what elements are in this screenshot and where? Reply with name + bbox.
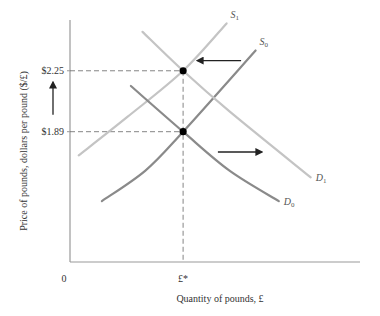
curve-label-subscript: 1 bbox=[236, 14, 240, 22]
y-axis-title: Price of pounds, dollars per pound ($/£) bbox=[18, 71, 30, 231]
curve-label-d1: D1 bbox=[315, 172, 327, 185]
curve-label-subscript: 0 bbox=[265, 41, 269, 49]
curve-label-subscript: 0 bbox=[291, 201, 295, 209]
curve-label-s0: S0 bbox=[260, 36, 269, 49]
x-tick-label: £* bbox=[178, 273, 188, 284]
guide-lines bbox=[70, 71, 183, 262]
curves bbox=[79, 23, 311, 201]
axes bbox=[67, 20, 360, 262]
curve-label-subscript: 1 bbox=[323, 177, 327, 185]
origin-label: 0 bbox=[62, 273, 67, 284]
arrows bbox=[53, 61, 261, 152]
curve-s0 bbox=[102, 50, 256, 201]
curve-d0 bbox=[131, 86, 279, 201]
equilibrium-point bbox=[180, 128, 187, 135]
equilibrium-points bbox=[180, 67, 187, 135]
x-axis-title: Quantity of pounds, £ bbox=[176, 293, 263, 304]
curve-d1 bbox=[143, 32, 311, 178]
equilibrium-point bbox=[180, 67, 187, 74]
curve-label-s1: S1 bbox=[231, 9, 240, 22]
chart-canvas: 0 Quantity of pounds, £ Price of pounds,… bbox=[0, 0, 380, 316]
y-tick-label: $1.89 bbox=[42, 126, 65, 137]
labels: 0 Quantity of pounds, £ Price of pounds,… bbox=[18, 9, 327, 304]
curve-label-d0: D0 bbox=[283, 196, 295, 209]
y-tick-label: $2.25 bbox=[42, 65, 65, 76]
